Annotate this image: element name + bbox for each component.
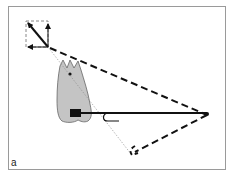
hook-icon: [104, 113, 120, 121]
resultant-force-arrow-icon: [28, 23, 48, 47]
biomechanics-diagram: [0, 0, 237, 178]
panel-label: a: [11, 158, 17, 168]
bracket: [70, 109, 81, 117]
force-parallelogram: [26, 21, 48, 47]
anchorage-point: [205, 112, 209, 116]
